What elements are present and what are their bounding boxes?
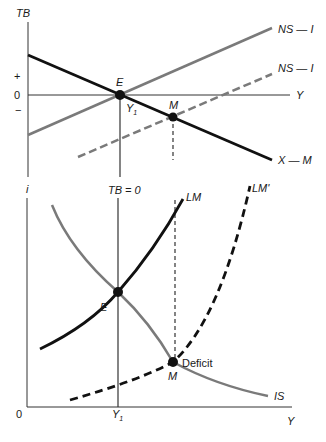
- ns-minus-i-line: [28, 28, 272, 135]
- top-point-e-label: E: [116, 76, 124, 88]
- x-minus-m-label: X — M: [277, 154, 312, 166]
- diagram: TB Y + 0 − NS — I NS — I X — M E M Y1 i …: [0, 0, 326, 442]
- top-y-axis-label: TB: [16, 7, 30, 19]
- bottom-point-m-label: M: [168, 370, 178, 382]
- lm-curve: [40, 199, 183, 349]
- top-point-m-label: M: [169, 99, 179, 111]
- lm-prime-curve: [70, 186, 250, 400]
- bottom-y-axis-label: i: [26, 183, 29, 195]
- top-panel: TB Y + 0 − NS — I NS — I X — M E M Y1: [14, 7, 313, 177]
- top-x-axis-label: Y: [296, 89, 304, 101]
- bottom-x-axis-label: Y: [287, 415, 295, 427]
- bottom-point-e: [113, 287, 123, 297]
- is-label: IS: [274, 390, 285, 402]
- origin-label: 0: [16, 408, 22, 420]
- tick-plus: +: [14, 70, 20, 82]
- top-point-e: [115, 90, 125, 100]
- tb-zero-label: TB = 0: [108, 184, 142, 196]
- ns-minus-i-shifted-label: NS — I: [278, 62, 313, 74]
- bottom-point-m: [168, 357, 178, 367]
- lm-label: LM: [186, 191, 202, 203]
- ns-minus-i-label: NS — I: [278, 23, 313, 35]
- bottom-point-e-label: E: [100, 301, 108, 313]
- top-point-m: [169, 113, 178, 122]
- bottom-y1-label: Y1: [112, 408, 123, 422]
- top-y1-label: Y1: [126, 102, 137, 116]
- x-minus-m-line: [28, 55, 272, 160]
- tick-minus: −: [15, 104, 21, 116]
- tick-zero: 0: [14, 89, 20, 101]
- bottom-panel: i Y 0 TB = 0 IS LM LM' E M Deficit Y1: [16, 182, 295, 427]
- lm-prime-label: LM': [252, 182, 270, 194]
- deficit-label: Deficit: [182, 357, 213, 369]
